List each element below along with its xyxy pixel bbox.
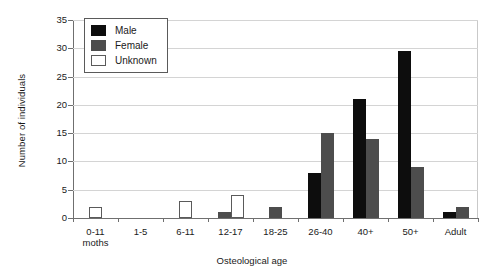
y-axis-tick-label: 20 xyxy=(27,100,67,110)
y-axis-tick-label: 10 xyxy=(27,156,67,166)
bar-female xyxy=(269,207,282,218)
legend-swatch-unknown-icon xyxy=(91,55,106,66)
x-axis-tick xyxy=(253,218,254,222)
y-axis-tick-label: 5 xyxy=(27,185,67,195)
bar-unknown xyxy=(231,195,244,218)
x-axis-tick xyxy=(73,218,74,222)
x-axis-tick xyxy=(478,218,479,222)
legend-label-female: Female xyxy=(115,40,148,51)
x-axis-label-line: moths xyxy=(66,237,126,248)
legend-label-male: Male xyxy=(115,25,137,36)
legend-label-unknown: Unknown xyxy=(115,55,157,66)
bar-male xyxy=(353,99,366,218)
bar-male xyxy=(443,212,456,218)
bar-unknown xyxy=(89,207,102,218)
x-axis-tick xyxy=(343,218,344,222)
y-axis-title: Number of individuals xyxy=(16,36,27,206)
bar-male xyxy=(398,51,411,218)
x-axis-tick xyxy=(433,218,434,222)
bar-female xyxy=(456,207,469,218)
y-axis-tick-label: 30 xyxy=(27,43,67,53)
x-axis-tick xyxy=(298,218,299,222)
bar-female xyxy=(218,212,231,218)
bar-female xyxy=(321,133,334,218)
legend-swatch-male-icon xyxy=(91,25,106,36)
x-axis-label-line: Adult xyxy=(426,226,486,237)
y-axis-tick-label: 15 xyxy=(27,128,67,138)
legend-swatch-female-icon xyxy=(91,40,106,51)
bar-female xyxy=(411,167,424,218)
bar-female xyxy=(366,139,379,218)
y-axis-tick-label: 0 xyxy=(27,213,67,223)
legend-item: Unknown xyxy=(91,53,157,68)
bar-male xyxy=(308,173,321,218)
x-axis-title: Osteological age xyxy=(0,255,504,266)
legend-item: Male xyxy=(91,23,157,38)
bar-unknown xyxy=(179,201,192,218)
x-axis-tick xyxy=(208,218,209,222)
bar-chart: Number of individuals 05101520253035 0-1… xyxy=(0,0,504,278)
x-axis-category-label: Adult xyxy=(426,226,486,237)
x-axis-line xyxy=(73,218,479,219)
legend-item: Female xyxy=(91,38,157,53)
y-axis-tick-label: 35 xyxy=(27,15,67,25)
x-axis-tick xyxy=(388,218,389,222)
legend: Male Female Unknown xyxy=(84,18,168,73)
y-axis-tick-label: 25 xyxy=(27,72,67,82)
x-axis-tick xyxy=(118,218,119,222)
x-axis-tick xyxy=(163,218,164,222)
